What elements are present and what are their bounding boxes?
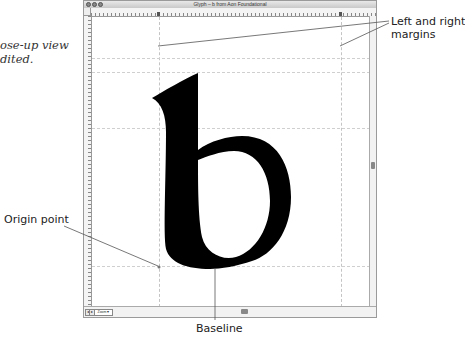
glyph-canvas[interactable] (92, 17, 370, 307)
window-title: Glyph – b from Aon Foundational (84, 1, 376, 8)
horizontal-ruler[interactable] (91, 8, 376, 17)
glyph-window: Glyph – b from Aon Foundational ◂ ▸ Zoom… (83, 0, 377, 318)
book-caption: ose-up view dited. (0, 38, 69, 66)
right-margin-marker[interactable] (339, 12, 342, 16)
baseline-callout: Baseline (196, 322, 243, 335)
vertical-scrollbar[interactable] (369, 16, 376, 307)
zoom-dropdown[interactable]: Zoom ▾ (94, 309, 113, 316)
vertical-scroll-thumb[interactable] (371, 162, 375, 169)
left-margin-marker[interactable] (157, 12, 160, 16)
horizontal-scroll-thumb[interactable] (241, 309, 248, 314)
ruler-corner (84, 8, 91, 16)
glyph-b-outline[interactable] (92, 17, 370, 307)
margins-callout: Left and right margins (391, 15, 465, 41)
origin-point-callout: Origin point (4, 213, 69, 226)
vertical-ruler[interactable] (84, 16, 92, 307)
origin-point-marker (158, 266, 161, 269)
horizontal-scrollbar[interactable]: ◂ ▸ Zoom ▾ (84, 306, 376, 317)
